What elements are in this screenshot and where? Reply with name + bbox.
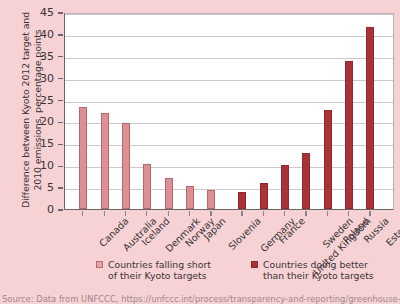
x-axis-tick	[284, 211, 285, 216]
gridline	[65, 189, 393, 190]
x-axis-tick	[189, 211, 190, 216]
x-axis-tick	[168, 211, 169, 216]
x-axis-tick	[125, 211, 126, 216]
y-axis-tick	[58, 100, 63, 101]
bar	[238, 192, 246, 209]
bar	[345, 61, 353, 209]
bar	[186, 186, 194, 209]
y-axis-tick	[58, 12, 63, 13]
y-axis-tick-label: 35	[14, 51, 54, 62]
gridline	[65, 58, 393, 59]
gridline	[65, 123, 393, 124]
bar	[143, 164, 151, 210]
x-axis-tick	[210, 211, 211, 216]
bar	[366, 27, 374, 209]
gridline	[65, 14, 393, 15]
y-axis-tick-label: 10	[14, 160, 54, 171]
y-axis-tick-label: 5	[14, 182, 54, 193]
x-axis-tick	[241, 211, 242, 216]
bar	[122, 123, 130, 209]
bar	[79, 107, 87, 209]
y-axis-tick-label: 25	[14, 95, 54, 106]
bar	[260, 183, 268, 209]
legend-item-doing-better: Countries doing better than their Kyoto …	[251, 259, 374, 281]
bar	[324, 110, 332, 209]
y-axis-tick	[58, 187, 63, 188]
bar	[165, 178, 173, 210]
y-axis-tick	[58, 56, 63, 57]
gridline	[65, 80, 393, 81]
chart-figure: Difference between Kyoto 2012 target and…	[0, 0, 400, 304]
y-axis-tick	[58, 209, 63, 210]
x-axis-tick	[327, 211, 328, 216]
y-axis-tick	[58, 144, 63, 145]
legend-swatch-icon	[251, 261, 258, 268]
y-axis-tick	[58, 166, 63, 167]
y-axis-tick	[58, 78, 63, 79]
legend-item-falling-short: Countries falling short of their Kyoto t…	[96, 259, 211, 281]
x-axis-tick	[82, 211, 83, 216]
gridline	[65, 36, 393, 37]
y-axis-tick-label: 45	[14, 7, 54, 18]
y-axis-tick-label: 20	[14, 116, 54, 127]
x-axis-tick	[369, 211, 370, 216]
plot-area	[64, 13, 394, 210]
y-axis-tick	[58, 122, 63, 123]
bar	[101, 113, 109, 209]
y-axis-tick-label: 15	[14, 138, 54, 149]
y-axis-tick-label: 0	[14, 204, 54, 215]
source-note: Source: Data from UNFCCC, https://unfccc…	[2, 294, 400, 304]
x-axis-tick	[263, 211, 264, 216]
x-axis-tick	[348, 211, 349, 216]
legend-label: Countries doing better than their Kyoto …	[263, 259, 374, 281]
bar	[207, 190, 215, 209]
y-axis-tick	[58, 34, 63, 35]
bar	[281, 165, 289, 209]
y-axis-tick-label: 30	[14, 73, 54, 84]
x-axis-tick	[146, 211, 147, 216]
chart-legend: Countries falling short of their Kyoto t…	[96, 259, 396, 289]
gridline	[65, 167, 393, 168]
gridline	[65, 102, 393, 103]
bar	[302, 153, 310, 209]
x-axis-tick	[305, 211, 306, 216]
legend-swatch-icon	[96, 261, 103, 268]
gridline	[65, 145, 393, 146]
legend-label: Countries falling short of their Kyoto t…	[108, 259, 211, 281]
y-axis-tick-label: 40	[14, 29, 54, 40]
x-axis-tick	[104, 211, 105, 216]
